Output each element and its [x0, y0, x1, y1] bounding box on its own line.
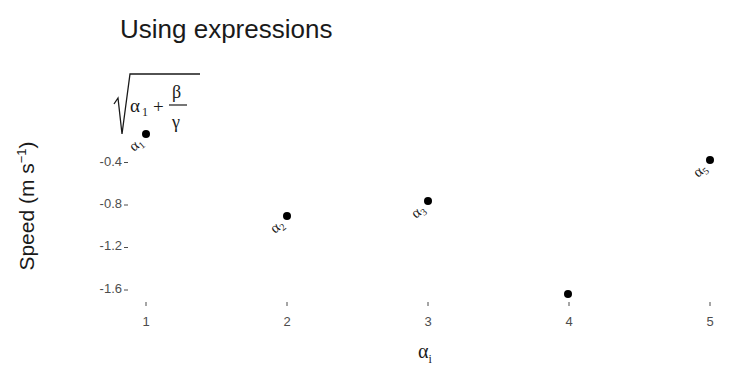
x-tick-label: 5 — [700, 314, 720, 329]
data-point — [283, 212, 291, 220]
plot-area: α1 α2 α3 α4 α5 — [0, 0, 746, 374]
data-point — [142, 130, 150, 138]
x-tick-label: 2 — [277, 314, 297, 329]
data-point — [564, 290, 572, 298]
x-tick-label: 3 — [418, 314, 438, 329]
data-point — [706, 156, 714, 164]
x-tick-label: 4 — [559, 314, 579, 329]
x-tick-marks — [146, 302, 710, 306]
x-axis-label: αi — [418, 340, 432, 367]
data-point — [424, 197, 432, 205]
point-labels: α1 α2 α3 α4 α5 — [126, 134, 711, 315]
y-tick-marks — [124, 163, 128, 291]
x-tick-label: 1 — [136, 314, 156, 329]
